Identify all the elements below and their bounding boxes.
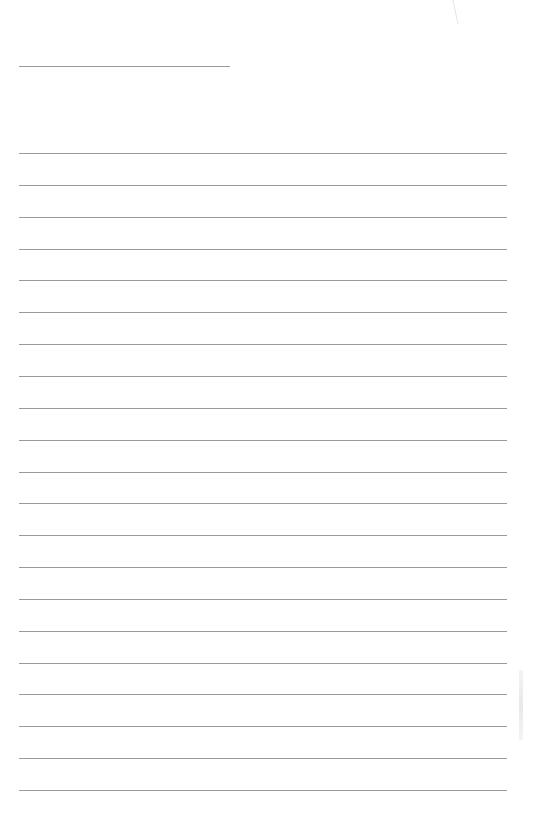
ruled-line [19,503,507,504]
ruled-line [19,472,507,473]
ruled-line [19,535,507,536]
ruled-line [19,663,507,664]
ruled-line [19,153,507,154]
ruled-line [19,376,507,377]
ruled-line [19,726,507,727]
ruled-line [19,567,507,568]
ruled-line [19,631,507,632]
ruled-line [19,790,507,791]
ruled-line [19,185,507,186]
header-line [19,66,230,67]
ruled-line [19,408,507,409]
ruled-line [19,694,507,695]
ruled-line [19,599,507,600]
ruled-line [19,217,507,218]
scan-artifact [453,0,459,24]
ruled-line [19,280,507,281]
ruled-line [19,249,507,250]
ruled-line [19,758,507,759]
ruled-line [19,440,507,441]
ruled-line [19,312,507,313]
scan-edge-artifact [519,670,523,740]
ruled-line [19,344,507,345]
